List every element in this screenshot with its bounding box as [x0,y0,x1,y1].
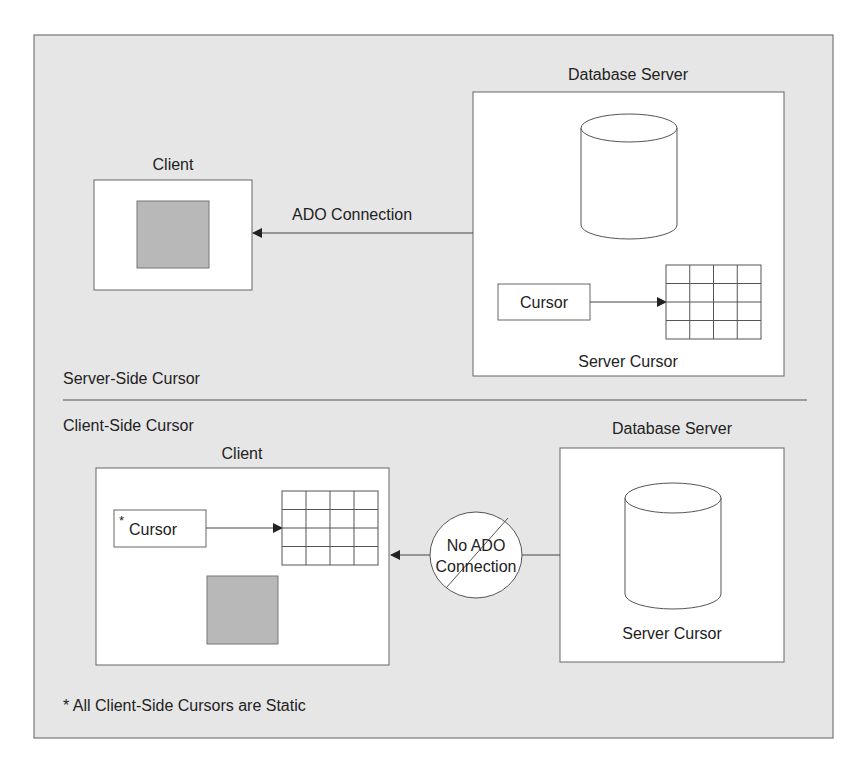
server-cursor-caption-bottom: Server Cursor [622,625,722,642]
client-data-block-bottom [207,576,278,644]
client-side-section-label: Client-Side Cursor [63,417,194,434]
footnote: * All Client-Side Cursors are Static [63,697,306,714]
client-label-bottom: Client [222,445,263,462]
server-side-section-label: Server-Side Cursor [63,370,201,387]
no-ado-label-line2: Connection [436,558,517,575]
server-cursor-box-label: Cursor [520,294,569,311]
db-server-label-bottom: Database Server [612,420,733,437]
static-cursor-marker: * [119,513,124,528]
no-connection-symbol [430,512,522,598]
client-label-top: Client [153,156,194,173]
client-cursor-box-label: Cursor [129,521,178,538]
database-cylinder-icon [625,483,721,609]
cursor-diagram: Database Server Cursor Server Cursor Cli… [0,0,863,775]
ado-connection-label: ADO Connection [292,206,412,223]
recordset-grid-icon-top [666,265,761,339]
db-server-label-top: Database Server [568,66,689,83]
database-cylinder-icon [581,114,677,239]
no-ado-label-line1: No ADO [447,537,506,554]
client-data-block-top [137,201,209,268]
server-cursor-caption-top: Server Cursor [578,353,678,370]
recordset-grid-icon-bottom [282,491,378,565]
